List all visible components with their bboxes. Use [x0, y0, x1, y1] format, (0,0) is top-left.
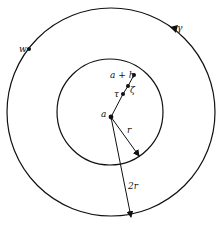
- gamma-label: γ: [177, 23, 183, 33]
- point-tau-label: τ: [114, 89, 120, 99]
- points-group: aτζa + hw: [19, 44, 136, 119]
- radius-r-label: r: [127, 125, 132, 135]
- radius-2r-label: 2r: [127, 181, 139, 191]
- point-a-label: a: [101, 109, 106, 119]
- point-zeta-label: ζ: [130, 85, 136, 95]
- point-w-dot: [27, 47, 31, 51]
- complex-analysis-diagram: γ r 2r aτζa + hw: [0, 0, 220, 228]
- outer-circle-gamma: [7, 8, 215, 216]
- point-w-label: w: [19, 44, 27, 54]
- point-tau-dot: [121, 92, 125, 96]
- point-a-dot: [109, 115, 114, 120]
- point-a-plus-h-label: a + h: [110, 70, 134, 80]
